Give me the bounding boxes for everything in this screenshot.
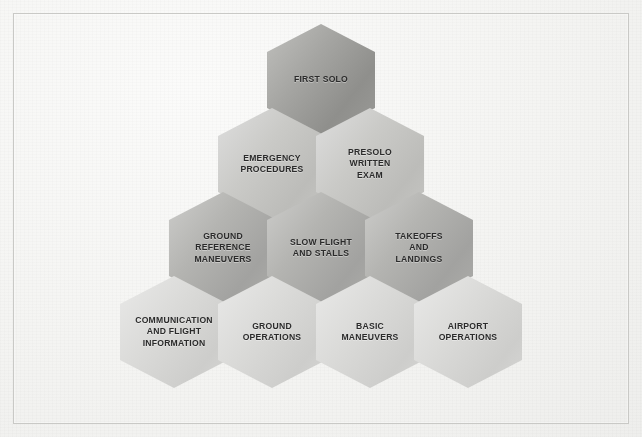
hex-cell-label: PRESOLO WRITTEN EXAM — [339, 147, 401, 181]
hex-cell-label: BASIC MANEUVERS — [332, 321, 407, 344]
hex-cell-label: GROUND OPERATIONS — [234, 321, 311, 344]
hex-cell-label: GROUND REFERENCE MANEUVERS — [185, 231, 260, 265]
hex-cell-label: EMERGENCY PROCEDURES — [231, 153, 312, 176]
hex-cell-label: COMMUNICATION AND FLIGHT INFORMATION — [126, 315, 222, 349]
hex-cell-label: TAKEOFFS AND LANDINGS — [386, 231, 452, 265]
hex-cell-label: AIRPORT OPERATIONS — [430, 321, 507, 344]
hex-cell-label: FIRST SOLO — [285, 74, 357, 85]
hex-cell-label: SLOW FLIGHT AND STALLS — [281, 237, 361, 260]
hexagon-pyramid: FIRST SOLOEMERGENCY PROCEDURESPRESOLO WR… — [0, 0, 642, 437]
diagram-page: FIRST SOLOEMERGENCY PROCEDURESPRESOLO WR… — [0, 0, 642, 437]
